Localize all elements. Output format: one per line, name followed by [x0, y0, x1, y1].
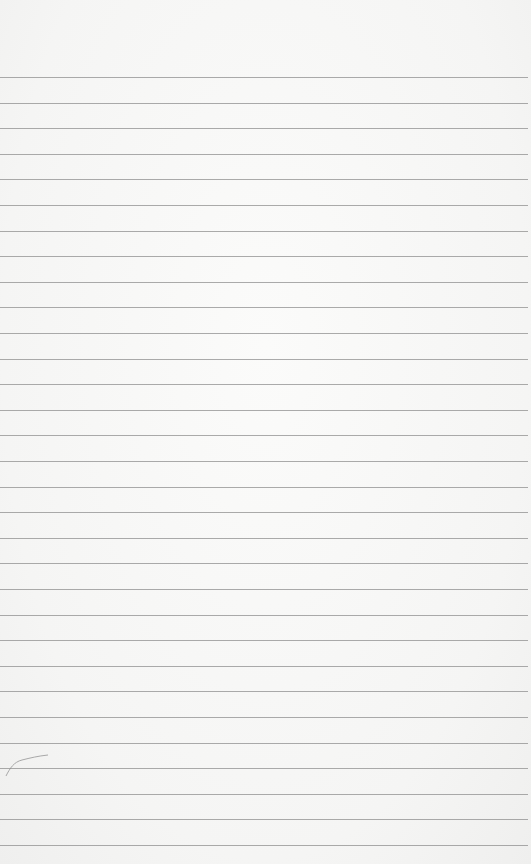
ruled-line: [0, 154, 528, 155]
pencil-scribble: [4, 750, 54, 780]
ruled-line: [0, 410, 528, 411]
ruled-line: [0, 333, 528, 334]
ruled-line: [0, 384, 528, 385]
ruled-line: [0, 487, 528, 488]
ruled-line: [0, 794, 528, 795]
ruled-line: [0, 640, 528, 641]
ruled-line: [0, 231, 528, 232]
ruled-line: [0, 77, 528, 78]
ruled-line: [0, 435, 528, 436]
ruled-line: [0, 461, 528, 462]
ruled-line: [0, 743, 528, 744]
ruled-line: [0, 819, 528, 820]
ruled-line: [0, 768, 528, 769]
ruled-line: [0, 128, 528, 129]
ruled-line: [0, 307, 528, 308]
ruled-line: [0, 589, 528, 590]
ruled-line: [0, 845, 528, 846]
ruled-line: [0, 717, 528, 718]
ruled-line: [0, 256, 528, 257]
ruled-line: [0, 666, 528, 667]
ruled-line: [0, 538, 528, 539]
lined-paper: [0, 0, 531, 864]
ruled-line: [0, 563, 528, 564]
ruled-line: [0, 615, 528, 616]
ruled-line: [0, 691, 528, 692]
ruled-line: [0, 205, 528, 206]
ruled-line: [0, 282, 528, 283]
ruled-line: [0, 512, 528, 513]
ruled-line: [0, 179, 528, 180]
ruled-line: [0, 359, 528, 360]
ruled-line: [0, 103, 528, 104]
